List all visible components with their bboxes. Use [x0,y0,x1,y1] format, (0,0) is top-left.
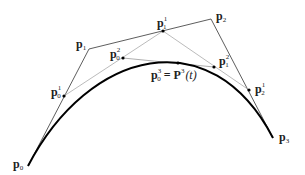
label-p0-1: p10 [51,84,62,100]
label-p2-1: p12 [255,81,266,97]
point-p0-3 [176,61,179,64]
label-p1-2: p21 [219,53,230,69]
point-p1-2 [212,65,215,68]
label-p1-1: p11 [157,15,168,31]
de-casteljau-diagram: p0 p1 p2 p3 p10 p11 p12 p20 p21 p30=P3(t… [0,0,305,175]
label-p2: p2 [216,9,227,24]
point-p2-1 [247,88,250,91]
label-p0: p0 [13,157,24,172]
label-p3: p3 [279,130,290,145]
control-polygon [28,19,273,166]
label-p1: p1 [76,37,87,52]
label-p0-3-equation: p30=P3(t) [151,67,197,83]
point-p0-1 [62,94,65,97]
point-p0-2 [121,56,124,59]
label-p0-2: p20 [110,46,121,62]
